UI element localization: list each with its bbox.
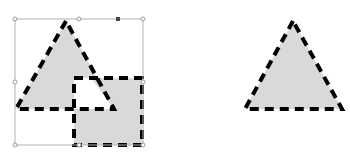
resize-handle-middle-left[interactable] bbox=[13, 80, 17, 84]
resize-handle-top-right[interactable] bbox=[141, 17, 145, 21]
resize-handle-bottom-right[interactable] bbox=[141, 143, 145, 147]
resize-handle-bottom-middle[interactable] bbox=[77, 143, 81, 147]
resize-handle-middle-right[interactable] bbox=[141, 80, 145, 84]
rotate-handle[interactable] bbox=[116, 17, 120, 21]
resize-handle-bottom-left[interactable] bbox=[13, 143, 17, 147]
resize-handle-top-left[interactable] bbox=[13, 17, 17, 21]
right-triangle-shape[interactable] bbox=[245, 21, 342, 109]
resize-handle-top-middle[interactable] bbox=[77, 17, 81, 21]
right-shape-group[interactable] bbox=[245, 21, 342, 109]
drawing-canvas[interactable] bbox=[0, 0, 350, 162]
selected-shape-group[interactable] bbox=[16, 21, 142, 145]
